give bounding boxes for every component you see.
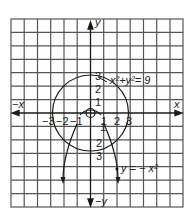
svg-text:2: 2 [96, 137, 102, 149]
x-axis-left-arrow-icon [12, 111, 19, 116]
svg-text:3: 3 [96, 150, 102, 162]
y-axis-down-arrow-icon [88, 199, 93, 206]
x-axis-right-arrow-icon [175, 111, 182, 116]
circle-equation-label: x²+y²= 9 [109, 74, 150, 86]
svg-text:3: 3 [126, 115, 132, 127]
svg-text:3: 3 [95, 70, 101, 82]
x-axis-label: x [173, 98, 180, 110]
svg-text:1: 1 [100, 121, 106, 133]
svg-text:2: 2 [114, 115, 120, 127]
svg-text:−2: −2 [56, 115, 69, 127]
svg-text:2: 2 [95, 83, 101, 95]
x-tick-labels: −3 −2 −1 1 2 3 [42, 115, 132, 127]
neg-y-axis-label: −y [95, 195, 108, 207]
y-axis-label: y [94, 16, 102, 28]
svg-text:−3: −3 [42, 115, 55, 127]
y-axis-up-arrow-icon [88, 22, 93, 29]
parabola-equation-label: y = − x² [120, 162, 158, 174]
svg-text:1: 1 [95, 96, 101, 108]
neg-x-axis-label: −x [12, 98, 24, 110]
svg-text:−1: −1 [70, 115, 83, 127]
coordinate-graph: y −y −x x −3 −2 −1 1 2 3 1 2 3 1 2 3 x²+… [0, 0, 194, 222]
